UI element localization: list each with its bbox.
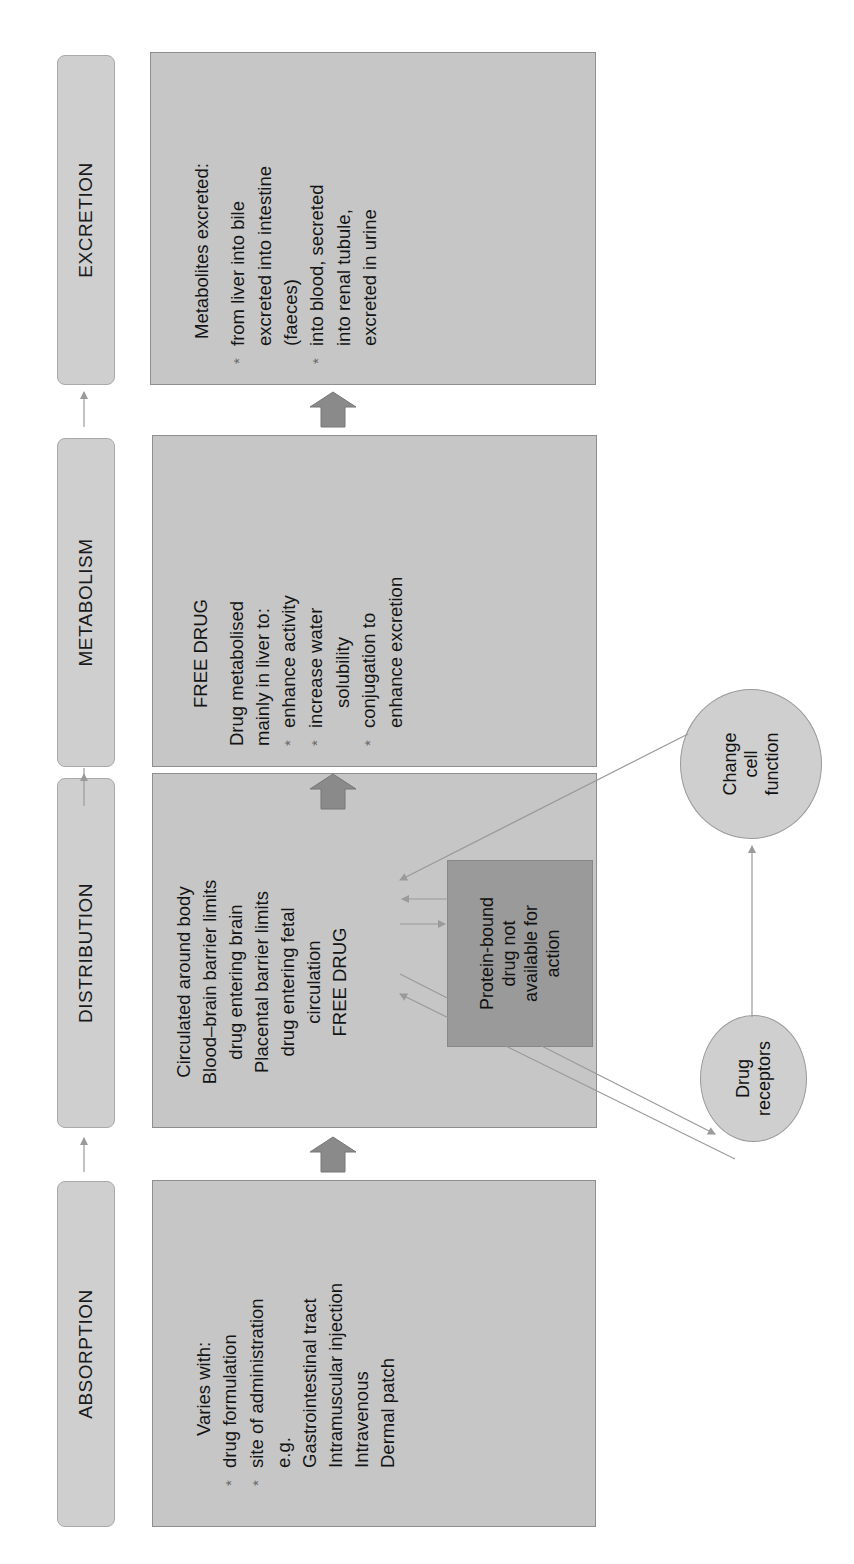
protein-binding-arrows [400, 899, 448, 924]
receptor-arrows [400, 734, 752, 1159]
arrow-from-receptors-icon [400, 994, 735, 1159]
arrow-cell-to-free-drug-icon [400, 734, 688, 880]
block-arrow-icon [310, 392, 356, 427]
block-arrow-icon [310, 1137, 356, 1172]
arrows-layer [0, 0, 854, 1564]
block-arrows [310, 392, 356, 1172]
arrow-to-receptors-icon [400, 974, 715, 1134]
pharmacokinetics-diagram: ABSORPTION DISTRIBUTION METABOLISM EXCRE… [0, 0, 854, 1564]
block-arrow-icon [310, 774, 356, 809]
